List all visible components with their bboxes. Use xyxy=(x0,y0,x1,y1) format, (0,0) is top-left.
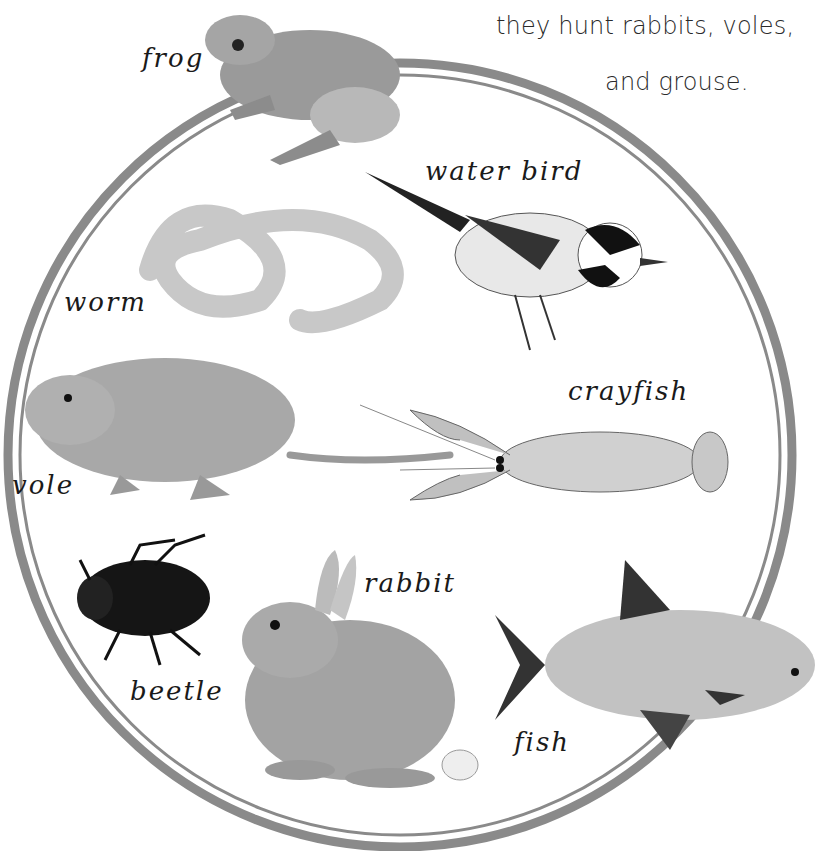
label-water-bird: water bird xyxy=(425,156,583,186)
water-bird-illustration xyxy=(365,172,668,350)
caption-line-2: and grouse. xyxy=(605,68,749,96)
label-beetle: beetle xyxy=(130,676,224,706)
vole-illustration xyxy=(25,358,450,500)
label-crayfish: crayfish xyxy=(568,376,689,406)
diagram-artwork xyxy=(0,0,827,851)
label-frog: frog xyxy=(142,43,204,73)
worm-illustration xyxy=(150,216,393,323)
crayfish-illustration xyxy=(360,405,728,500)
label-rabbit: rabbit xyxy=(364,568,456,598)
label-vole: vole xyxy=(12,470,74,500)
label-fish: fish xyxy=(514,727,570,757)
label-worm: worm xyxy=(64,287,147,317)
caption-line-1: they hunt rabbits, voles, xyxy=(496,12,794,40)
beetle-illustration xyxy=(77,535,210,665)
prey-diagram: they hunt rabbits, voles, and grouse. fr… xyxy=(0,0,827,851)
frog-illustration xyxy=(205,15,400,165)
